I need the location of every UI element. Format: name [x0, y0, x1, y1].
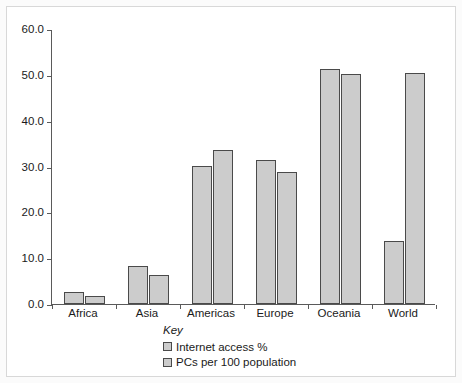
legend-item: PCs per 100 population [163, 355, 296, 369]
legend-swatch-icon [163, 342, 172, 351]
x-axis-category-label: World [371, 308, 435, 320]
bar [341, 74, 361, 304]
legend-swatch-icon [163, 358, 172, 367]
bar [256, 160, 276, 304]
bar [64, 292, 84, 304]
y-axis-tick-label: 10.0 [4, 253, 44, 265]
legend-item: Internet access % [163, 340, 296, 354]
x-axis-category-label: Americas [179, 308, 243, 320]
plot-area [51, 30, 435, 305]
bar [85, 296, 105, 304]
legend-title: Key [163, 324, 296, 338]
bar [277, 172, 297, 304]
x-axis-category-label: Africa [51, 308, 115, 320]
bar [192, 166, 212, 304]
legend-item-label: Internet access % [176, 340, 267, 354]
y-axis-tick-label: 30.0 [4, 162, 44, 174]
y-axis-tick-label: 20.0 [4, 207, 44, 219]
x-axis-category-label: Europe [243, 308, 307, 320]
chart-legend: Key Internet access %PCs per 100 populat… [163, 324, 296, 370]
bar [149, 275, 169, 304]
y-axis-tick-label: 60.0 [4, 24, 44, 36]
x-axis-category-label: Asia [115, 308, 179, 320]
bar [405, 73, 425, 304]
y-axis-tick-label: 50.0 [4, 70, 44, 82]
bars-layer [52, 30, 435, 304]
y-axis-tick-label: 40.0 [4, 116, 44, 128]
bar [320, 69, 340, 304]
y-axis-tick-label: 0.0 [4, 299, 44, 311]
legend-item-label: PCs per 100 population [176, 355, 296, 369]
x-axis-category-label: Oceania [307, 308, 371, 320]
legend-entries: Internet access %PCs per 100 population [163, 340, 296, 370]
bar [384, 241, 404, 304]
x-axis-tick-mark [436, 305, 437, 309]
bar [128, 266, 148, 304]
bar-chart-figure: 0.010.020.030.040.050.060.0 AfricaAsiaAm… [0, 0, 462, 383]
bar [213, 150, 233, 304]
